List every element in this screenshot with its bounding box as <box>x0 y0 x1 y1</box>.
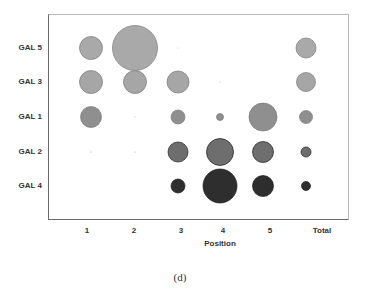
bubble-point <box>249 103 277 131</box>
bubble-point <box>90 151 91 152</box>
bubble-point <box>167 71 189 93</box>
bubble-point <box>81 107 102 128</box>
bubble-point <box>134 151 135 152</box>
bubble-point <box>113 26 158 71</box>
bubble-point <box>124 71 147 94</box>
bubble-point <box>296 38 316 58</box>
bubble-point <box>217 114 224 121</box>
bubble-point <box>297 73 316 92</box>
bubble-point <box>253 142 274 163</box>
bubble-layer <box>0 0 366 294</box>
bubble-chart-figure: GAL 5 GAL 3 GAL 1 GAL 2 GAL 4 1 2 3 4 5 … <box>0 0 366 294</box>
bubble-point <box>219 81 220 82</box>
bubble-point <box>177 47 178 48</box>
bubble-point <box>134 116 135 117</box>
bubble-point <box>80 37 103 60</box>
bubble-point <box>300 111 313 124</box>
bubble-point <box>207 139 234 166</box>
bubble-point <box>171 110 185 124</box>
bubble-point <box>168 142 188 162</box>
bubble-point <box>302 182 311 191</box>
bubble-point <box>203 169 237 203</box>
bubble-point <box>253 176 274 197</box>
bubble-point <box>80 71 103 94</box>
bubble-point <box>171 179 185 193</box>
bubble-point <box>301 147 311 157</box>
